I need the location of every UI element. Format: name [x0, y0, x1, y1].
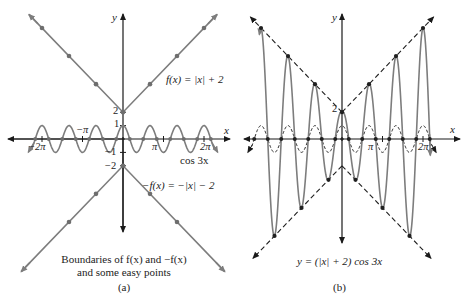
panel-b-equation: y = (|x| + 2) cos 3x [297, 256, 382, 267]
panel-b-peak-point [367, 82, 371, 86]
panel-b-y-axis-label: y [332, 12, 337, 23]
panel-a-f-arrow-right [208, 14, 217, 23]
panel-a-cos-zero-point [182, 137, 186, 141]
panel-b-tick-x-pi: π [368, 142, 373, 153]
panel-b-zero-point [347, 137, 351, 141]
panel-a-f-vertex-point [121, 110, 126, 115]
panel-a-neg-f-point [148, 192, 153, 197]
panel-a-x-axis-label: x [224, 125, 229, 136]
panel-b-zero-point [401, 137, 405, 141]
panel-b-zero-point [293, 137, 297, 141]
panel-a-tick-x-neg2pi: −2π [28, 142, 46, 153]
panel-a-cos-zero-point [101, 137, 105, 141]
panel-a-f-point [148, 82, 153, 87]
panel-a-neg-f-arrow-left [21, 262, 30, 271]
panel-b-zero-point [306, 137, 310, 141]
panel-a-tick-y-1: 1 [114, 119, 119, 130]
panel-a-f-point [67, 54, 72, 59]
panel-a-cos-zero-point [47, 137, 51, 141]
panel-a-cos-zero-point [128, 137, 132, 141]
panel-a-y-axis-label: y [112, 12, 117, 23]
panel-a-f-point [94, 82, 99, 87]
panel-b-zero-point [252, 137, 256, 141]
panel-b-plot [244, 14, 460, 258]
panel-b-peak-point [421, 26, 425, 30]
panel-b-zero-point [333, 137, 337, 141]
panel-a-caption: Boundaries of f(x) and −f(x) and some ea… [44, 253, 204, 294]
panel-b-tick-y-2: 2 [332, 104, 337, 115]
panel-a-tick-x-2pi: 2π [200, 142, 211, 153]
panel-b-trough-point [299, 206, 303, 210]
panel-a-tick-y-neg1: −1 [105, 147, 116, 158]
panel-a-neg-f-point [67, 220, 72, 225]
panel-a-f-point [175, 54, 180, 59]
panel-b-peak-point [340, 110, 344, 114]
panel-b-zero-point [360, 137, 364, 141]
panel-a-tag: (a) [44, 281, 204, 294]
panel-a-cos-arrow-right [212, 143, 218, 153]
panel-b-peak-point [259, 26, 263, 30]
diagram-canvas [0, 0, 464, 296]
panel-b-zero-point [374, 137, 378, 141]
panel-b-tick-x-2pi: 2π [418, 142, 429, 153]
panel-b-trough-point [380, 206, 384, 210]
panel-a-neg-f-point [94, 192, 99, 197]
panel-b-trough-point [272, 234, 276, 238]
panel-b-peak-point [286, 54, 290, 58]
panel-b-peak-point [394, 54, 398, 58]
panel-a-tick-y-2: 2 [113, 106, 118, 117]
panel-b-cos-arrow-left [248, 145, 253, 153]
panel-b-peak-point [313, 82, 317, 86]
panel-a-f-point [202, 26, 207, 31]
panel-b-trough-point [326, 178, 330, 182]
panel-b-trough-point [407, 234, 411, 238]
panel-a-cos-zero-point [60, 137, 64, 141]
panel-b-zero-point [320, 137, 324, 141]
panel-b-main-curve [260, 28, 430, 236]
panel-a-cos-zero-point [74, 137, 78, 141]
panel-a-f-point [40, 26, 45, 31]
panel-b-zero-point [266, 137, 270, 141]
panel-a-f-arrow-left [29, 14, 38, 23]
panel-a-cos-zero-point [114, 137, 118, 141]
panel-a-neg-f-vertex-point [121, 164, 126, 169]
panel-a-tick-x-negpi: −π [76, 125, 88, 136]
panel-a-label-f: f(x) = |x| + 2 [166, 74, 224, 85]
panel-a-cos-zero-point [195, 137, 199, 141]
panel-b-cos-arrow-right [432, 145, 437, 153]
panel-b-trough-point [353, 178, 357, 182]
panel-a-cos-zero-point [141, 137, 145, 141]
panel-a-tick-y-neg2: −2 [105, 161, 116, 172]
panel-a-caption-line1: Boundaries of f(x) and −f(x) [44, 253, 204, 266]
panel-a-tick-x-pi: π [152, 142, 157, 153]
panel-b-x-axis-label: x [450, 124, 455, 135]
panel-a-caption-line2: and some easy points [44, 266, 204, 279]
panel-a-neg-f-point [175, 220, 180, 225]
panel-a-neg-f-arrow-right [216, 262, 225, 271]
panel-a-label-cos: cos 3x [180, 155, 208, 166]
panel-b-zero-point [279, 137, 283, 141]
panel-a-cos-zero-point [168, 137, 172, 141]
panel-a-cos-zero-point [87, 137, 91, 141]
panel-b-zero-point [387, 137, 391, 141]
panel-b-tag: (b) [333, 282, 346, 293]
panel-a-label-neg-f: −f(x) = −|x| − 2 [142, 180, 214, 191]
